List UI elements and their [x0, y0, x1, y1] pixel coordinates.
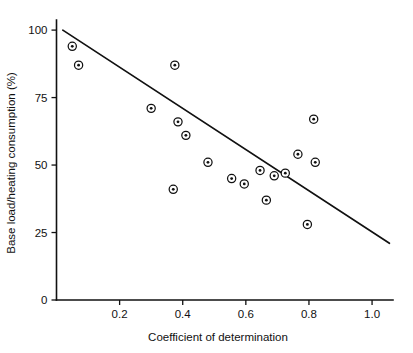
- data-point-center: [273, 174, 276, 177]
- data-point-center: [150, 107, 153, 110]
- data-point-center: [297, 153, 300, 156]
- x-axis-title: Coefficient of determination: [148, 331, 288, 343]
- data-point-center: [265, 199, 268, 202]
- y-axis-title: Base load/heating consumption (%): [5, 72, 17, 254]
- data-point: [281, 169, 289, 177]
- y-tick-label: 100: [28, 24, 47, 36]
- x-tick-label: 0.2: [112, 308, 128, 320]
- data-point-center: [243, 183, 246, 186]
- data-point: [240, 180, 248, 188]
- data-point: [171, 61, 179, 69]
- y-tick-label: 75: [35, 92, 48, 104]
- data-point: [169, 185, 177, 193]
- x-tick-label: 0.8: [301, 308, 317, 320]
- y-tick-label: 25: [35, 227, 48, 239]
- data-point: [262, 196, 270, 204]
- data-point: [311, 158, 319, 166]
- data-point: [310, 115, 318, 123]
- data-point: [204, 158, 212, 166]
- data-point: [270, 172, 278, 180]
- data-point-center: [314, 161, 317, 164]
- data-point-center: [71, 45, 74, 48]
- data-point-center: [207, 161, 210, 164]
- data-point: [74, 61, 82, 69]
- data-point-center: [177, 120, 180, 123]
- data-point: [147, 104, 155, 112]
- data-point-center: [284, 172, 287, 175]
- x-tick-label: 1.0: [364, 308, 380, 320]
- data-point-center: [173, 64, 176, 67]
- data-point-center: [172, 188, 175, 191]
- x-tick-label: 0.6: [238, 308, 254, 320]
- data-point: [228, 174, 236, 182]
- data-point: [68, 42, 76, 50]
- data-point: [174, 118, 182, 126]
- data-point: [256, 166, 264, 174]
- scatter-chart: 0.20.40.60.81.0 0255075100 Coefficient o…: [0, 0, 413, 353]
- data-point-center: [230, 177, 233, 180]
- data-point-center: [259, 169, 262, 172]
- data-point: [303, 220, 311, 228]
- y-tick-label: 50: [35, 159, 48, 171]
- data-point-center: [184, 134, 187, 137]
- x-tick-label: 0.4: [175, 308, 192, 320]
- data-point-center: [312, 118, 315, 121]
- data-point-center: [77, 64, 80, 67]
- data-point: [182, 131, 190, 139]
- data-point: [294, 150, 302, 158]
- y-tick-label: 0: [41, 294, 47, 306]
- data-point-center: [306, 223, 309, 226]
